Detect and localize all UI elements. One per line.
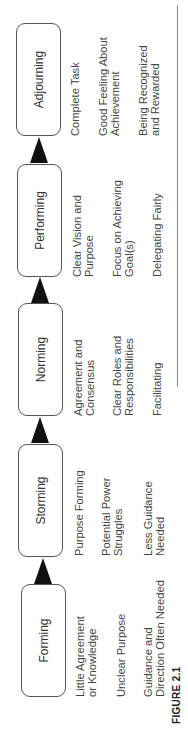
stage-item: Less Guidance Needed xyxy=(143,481,166,556)
stage-box-forming: Forming xyxy=(21,584,66,697)
stage-item: Potential Power Struggles xyxy=(101,478,124,556)
stage-item: Delegating Fairly xyxy=(152,193,164,277)
stage-item: Purpose Forming xyxy=(74,470,86,556)
stage-item: Clear Vision and Purpose xyxy=(72,195,95,277)
stage-item: Guidance and Direction Often Needed xyxy=(143,580,166,697)
stage-item: Little Agreement or Knowledge xyxy=(75,616,98,697)
stage-box-performing: Performing xyxy=(17,164,62,277)
stage-box-adjourning: Adjourning xyxy=(16,23,61,136)
stage-item: Unclear Purpose xyxy=(116,614,128,697)
stage-item: Clear Roles and Responsibilities xyxy=(112,336,135,416)
divider-rule xyxy=(177,5,178,387)
stage-item: Being Recognized and Rewarded xyxy=(138,45,161,136)
stage-label: Storming xyxy=(34,476,48,524)
arrow-right-icon xyxy=(31,417,49,443)
stage-item: Good Feeling About Achievement xyxy=(98,37,121,136)
figure-caption: FIGURE 2.1 xyxy=(171,667,182,724)
stage-label: Adjourning xyxy=(32,51,46,108)
stage-item: Agreement and Consensus xyxy=(73,340,96,417)
stage-box-storming: Storming xyxy=(18,444,63,557)
stage-label: Performing xyxy=(33,191,47,250)
arrow-right-icon xyxy=(31,277,49,303)
stage-item: Complete Task xyxy=(70,62,82,136)
team-development-diagram: Forming Storming Norming Performing Adjo… xyxy=(0,0,188,732)
stage-label: Norming xyxy=(34,337,48,382)
arrow-right-icon xyxy=(34,558,52,584)
stage-item: Facilitating xyxy=(152,363,164,416)
arrow-right-icon xyxy=(30,137,48,163)
stage-box-norming: Norming xyxy=(18,303,63,416)
stage-item: Focus on Achieving Goal(s) xyxy=(112,180,135,277)
stage-label: Forming xyxy=(37,619,51,663)
